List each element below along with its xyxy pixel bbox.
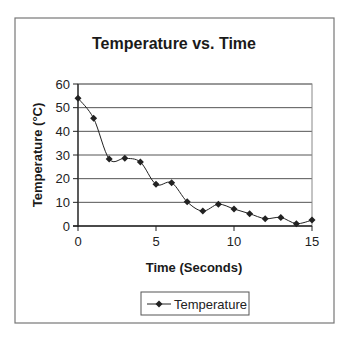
chart-svg: Temperature vs. Time 0102030405060 05101… bbox=[0, 0, 347, 338]
y-tick-label: 40 bbox=[56, 124, 70, 139]
y-tick-label: 10 bbox=[56, 195, 70, 210]
y-tick-label: 30 bbox=[56, 148, 70, 163]
y-tick-label: 20 bbox=[56, 171, 70, 186]
legend: Temperature bbox=[141, 292, 249, 315]
legend-label-temperature: Temperature bbox=[174, 297, 247, 312]
y-tick-label: 0 bbox=[63, 219, 70, 234]
x-tick-label: 15 bbox=[305, 234, 319, 249]
y-tick-label: 50 bbox=[56, 100, 70, 115]
chart-container: Temperature vs. Time 0102030405060 05101… bbox=[0, 0, 347, 338]
x-tick-label: 10 bbox=[227, 234, 241, 249]
x-axis-title: Time (Seconds) bbox=[146, 260, 243, 275]
y-axis-title: Temperature (°C) bbox=[30, 103, 45, 208]
x-tick-label: 0 bbox=[74, 234, 81, 249]
y-tick-label: 60 bbox=[56, 77, 70, 92]
x-tick-label: 5 bbox=[152, 234, 159, 249]
chart-title: Temperature vs. Time bbox=[92, 35, 256, 52]
